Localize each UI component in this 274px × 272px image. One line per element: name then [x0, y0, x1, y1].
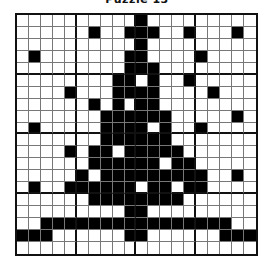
grid-cell[interactable] [220, 39, 232, 51]
grid-cell[interactable] [148, 63, 160, 75]
grid-cell[interactable] [101, 27, 113, 39]
grid-cell[interactable] [244, 230, 256, 242]
grid-cell[interactable] [196, 51, 208, 63]
grid-cell[interactable] [17, 182, 29, 194]
grid-cell[interactable] [172, 63, 184, 75]
grid-cell[interactable] [65, 146, 77, 158]
grid-cell[interactable] [208, 99, 220, 111]
grid-cell[interactable] [220, 170, 232, 182]
grid-cell[interactable] [196, 194, 208, 206]
grid-cell[interactable] [196, 170, 208, 182]
grid-cell[interactable] [160, 63, 172, 75]
grid-cell[interactable] [232, 75, 244, 87]
grid-cell[interactable] [184, 134, 196, 146]
grid-cell[interactable] [184, 27, 196, 39]
grid-cell[interactable] [41, 63, 53, 75]
grid-cell[interactable] [232, 99, 244, 111]
grid-cell[interactable] [184, 182, 196, 194]
grid-cell[interactable] [232, 218, 244, 230]
grid-cell[interactable] [77, 242, 89, 254]
grid-cell[interactable] [89, 87, 101, 99]
grid-cell[interactable] [17, 111, 29, 123]
grid-cell[interactable] [196, 230, 208, 242]
grid-cell[interactable] [53, 51, 65, 63]
grid-cell[interactable] [41, 182, 53, 194]
grid-cell[interactable] [208, 111, 220, 123]
grid-cell[interactable] [17, 170, 29, 182]
grid-cell[interactable] [113, 111, 125, 123]
grid-cell[interactable] [53, 182, 65, 194]
grid-cell[interactable] [136, 218, 148, 230]
grid-cell[interactable] [29, 87, 41, 99]
grid-cell[interactable] [172, 99, 184, 111]
grid-cell[interactable] [101, 111, 113, 123]
grid-cell[interactable] [65, 218, 77, 230]
grid-cell[interactable] [29, 15, 41, 27]
grid-cell[interactable] [244, 146, 256, 158]
grid-cell[interactable] [220, 206, 232, 218]
grid-cell[interactable] [53, 158, 65, 170]
grid-cell[interactable] [136, 39, 148, 51]
grid-cell[interactable] [148, 111, 160, 123]
grid-cell[interactable] [244, 242, 256, 254]
grid-cell[interactable] [148, 170, 160, 182]
grid-cell[interactable] [41, 99, 53, 111]
grid-cell[interactable] [65, 170, 77, 182]
grid-cell[interactable] [136, 99, 148, 111]
grid-cell[interactable] [77, 194, 89, 206]
grid-cell[interactable] [89, 51, 101, 63]
grid-cell[interactable] [125, 123, 137, 135]
grid-cell[interactable] [41, 123, 53, 135]
grid-cell[interactable] [160, 123, 172, 135]
grid-cell[interactable] [89, 27, 101, 39]
grid-cell[interactable] [125, 170, 137, 182]
grid-cell[interactable] [77, 170, 89, 182]
grid-cell[interactable] [220, 27, 232, 39]
grid-cell[interactable] [160, 27, 172, 39]
grid-cell[interactable] [172, 75, 184, 87]
grid-cell[interactable] [89, 15, 101, 27]
grid-cell[interactable] [208, 134, 220, 146]
grid-cell[interactable] [101, 123, 113, 135]
grid-cell[interactable] [125, 194, 137, 206]
grid-cell[interactable] [244, 75, 256, 87]
grid-cell[interactable] [196, 158, 208, 170]
grid-cell[interactable] [148, 15, 160, 27]
grid-cell[interactable] [244, 218, 256, 230]
grid-cell[interactable] [244, 123, 256, 135]
grid-cell[interactable] [89, 182, 101, 194]
grid-cell[interactable] [232, 182, 244, 194]
grid-cell[interactable] [113, 99, 125, 111]
grid-cell[interactable] [41, 75, 53, 87]
grid-cell[interactable] [136, 75, 148, 87]
grid-cell[interactable] [184, 158, 196, 170]
grid-cell[interactable] [65, 51, 77, 63]
grid-cell[interactable] [113, 39, 125, 51]
grid-cell[interactable] [113, 75, 125, 87]
grid-cell[interactable] [113, 15, 125, 27]
grid-cell[interactable] [125, 206, 137, 218]
grid-cell[interactable] [148, 182, 160, 194]
grid-cell[interactable] [53, 27, 65, 39]
grid-cell[interactable] [89, 123, 101, 135]
grid-cell[interactable] [136, 15, 148, 27]
grid-cell[interactable] [220, 111, 232, 123]
grid-cell[interactable] [125, 111, 137, 123]
grid-cell[interactable] [208, 75, 220, 87]
grid-cell[interactable] [232, 123, 244, 135]
grid-cell[interactable] [196, 206, 208, 218]
grid-cell[interactable] [136, 111, 148, 123]
grid-cell[interactable] [184, 146, 196, 158]
grid-cell[interactable] [125, 158, 137, 170]
grid-cell[interactable] [160, 146, 172, 158]
grid-cell[interactable] [172, 134, 184, 146]
grid-cell[interactable] [208, 87, 220, 99]
grid-cell[interactable] [101, 146, 113, 158]
grid-cell[interactable] [41, 206, 53, 218]
grid-cell[interactable] [136, 134, 148, 146]
grid-cell[interactable] [89, 75, 101, 87]
grid-cell[interactable] [41, 87, 53, 99]
grid-cell[interactable] [101, 87, 113, 99]
grid-cell[interactable] [136, 158, 148, 170]
grid-cell[interactable] [244, 99, 256, 111]
